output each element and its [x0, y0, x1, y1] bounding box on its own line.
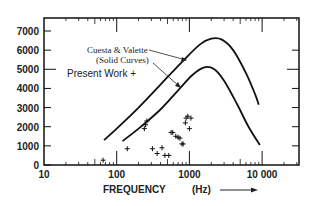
- scatter-point: [166, 153, 171, 158]
- x-tick-label: 1000: [178, 169, 201, 180]
- scatter-point: [160, 145, 165, 150]
- y-tick-label: 3000: [17, 103, 40, 114]
- scatter-point: [101, 158, 106, 163]
- x-axis-label: FREQUENCY: [103, 184, 166, 195]
- y-tick-label: 7000: [17, 26, 40, 37]
- x-axis-unit: (Hz): [192, 184, 211, 195]
- y-tick-label: 5000: [17, 64, 40, 75]
- curves-label-line1: Cuesta & Valette: [87, 45, 148, 55]
- y-tick-label: 4000: [17, 83, 40, 94]
- right-axis-ticks: [287, 50, 299, 146]
- scatter-point: [181, 141, 186, 146]
- scatter-point: [150, 146, 155, 151]
- curves-label-line2: (Solid Curves): [96, 55, 149, 65]
- plot-frame: [44, 18, 299, 165]
- present-work-label: Present Work +: [67, 68, 136, 79]
- scatter-point: [187, 126, 192, 131]
- arrow-to-lower-curve: [153, 63, 180, 87]
- y-tick-label: 6000: [17, 45, 40, 56]
- y-tick-label: 1000: [17, 141, 40, 152]
- y-tick-label: 2000: [17, 122, 40, 133]
- scatter-point: [125, 146, 130, 151]
- scatter-point: [183, 120, 188, 125]
- x-axis-arrowhead: [251, 188, 258, 193]
- chart: 01000200030004000500060007000 1010010001…: [0, 0, 315, 206]
- x-tick-label: 10: [38, 169, 50, 180]
- x-tick-label: 10 000: [247, 169, 278, 180]
- x-tick-label: 100: [108, 169, 125, 180]
- series-line: [122, 67, 259, 145]
- y-axis-ticks: 01000200030004000500060007000: [17, 26, 56, 171]
- scatter-point: [155, 151, 160, 156]
- arrow-to-upper-curve: [149, 50, 186, 60]
